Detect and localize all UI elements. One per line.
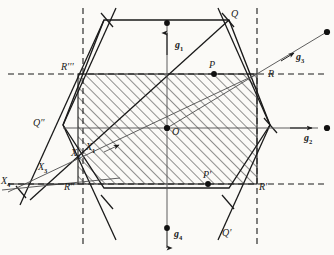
label-Q-double-prime: Q'' bbox=[33, 118, 45, 128]
dot-g4 bbox=[164, 225, 170, 231]
label-R-prime: R' bbox=[259, 182, 267, 192]
label-g4: g4 bbox=[174, 229, 182, 242]
label-g3: g3 bbox=[296, 52, 304, 65]
dot-g1 bbox=[164, 20, 170, 26]
dot-g3-end bbox=[324, 29, 330, 35]
dot-O bbox=[164, 125, 170, 131]
geometric-figure: Q Q' Q'' R R' R'' R''' P P' O X1 X2 X3 X… bbox=[0, 0, 334, 255]
label-R-triple-prime: R''' bbox=[61, 62, 74, 72]
label-X1: X1 bbox=[86, 142, 95, 155]
tick-bottom-left bbox=[101, 195, 113, 209]
label-P-prime: P' bbox=[203, 170, 211, 180]
label-P: P bbox=[209, 60, 215, 70]
dot-P bbox=[211, 71, 217, 77]
label-g2: g2 bbox=[304, 133, 312, 146]
label-R-double-prime: R'' bbox=[64, 182, 74, 192]
label-Q-prime: Q' bbox=[222, 228, 231, 238]
tick-bottom-right bbox=[222, 195, 234, 209]
diagram-canvas bbox=[0, 0, 334, 255]
dot-P-prime bbox=[205, 181, 211, 187]
label-O: O bbox=[172, 127, 179, 137]
label-X3: X3 bbox=[38, 162, 47, 175]
label-Q: Q bbox=[231, 9, 238, 19]
label-g1: g1 bbox=[175, 40, 183, 53]
label-R: R bbox=[268, 69, 274, 79]
label-X4: X4 bbox=[1, 176, 10, 189]
dot-g2-end bbox=[324, 125, 330, 131]
label-X2: X2 bbox=[71, 148, 80, 161]
